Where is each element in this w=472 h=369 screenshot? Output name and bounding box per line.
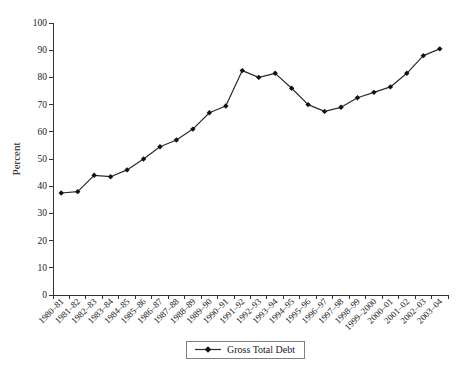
- y-tick-label: 80: [38, 72, 48, 82]
- y-tick-label: 0: [42, 290, 47, 300]
- data-point: [437, 46, 442, 51]
- data-point: [322, 109, 327, 114]
- data-point: [108, 174, 113, 179]
- data-point: [256, 75, 261, 80]
- y-axis-title: Percent: [10, 143, 22, 176]
- data-point: [371, 90, 376, 95]
- legend-label: Gross Total Debt: [227, 344, 295, 355]
- y-tick-label: 10: [38, 263, 48, 273]
- data-point: [240, 68, 245, 73]
- chart-canvas: 01020304050607080901001980–811981–821982…: [0, 0, 472, 369]
- chart-area: 01020304050607080901001980–811981–821982…: [0, 0, 472, 369]
- y-tick-label: 90: [38, 45, 48, 55]
- data-point: [223, 103, 228, 108]
- y-tick-label: 60: [38, 127, 48, 137]
- y-tick-label: 70: [38, 100, 48, 110]
- y-tick-label: 30: [38, 208, 48, 218]
- legend-line-marker-icon: [195, 345, 221, 354]
- y-tick-label: 50: [38, 154, 48, 164]
- legend: Gross Total Debt: [186, 341, 305, 359]
- y-tick-label: 20: [38, 236, 48, 246]
- series-line: [61, 49, 440, 193]
- y-tick-label: 100: [33, 18, 48, 28]
- data-point: [338, 105, 343, 110]
- y-tick-label: 40: [38, 181, 48, 191]
- data-point: [355, 95, 360, 100]
- data-point: [59, 190, 64, 195]
